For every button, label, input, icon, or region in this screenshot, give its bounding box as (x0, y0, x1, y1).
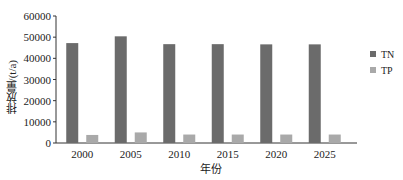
legend-label-tn: TN (381, 49, 394, 60)
y-tick-label: 60000 (24, 10, 52, 22)
bar-tn-2005 (115, 36, 127, 143)
bar-tp-2010 (183, 135, 195, 143)
legend-item-tn: TN (370, 46, 394, 62)
legend-swatch-tn (370, 51, 376, 57)
y-tick-label: 40000 (24, 52, 52, 64)
bar-tn-2020 (260, 44, 272, 143)
x-tick-label: 2020 (265, 148, 288, 160)
x-tick-label: 2000 (71, 148, 94, 160)
bar-tp-2015 (232, 135, 244, 143)
bar-tn-2010 (163, 44, 175, 143)
bar-tn-2015 (212, 44, 224, 143)
x-axis-label: 年份 (200, 160, 222, 176)
legend: TN TP (370, 46, 394, 78)
legend-swatch-tp (370, 67, 376, 73)
x-tick-label: 2025 (314, 148, 337, 160)
legend-item-tp: TP (370, 62, 394, 78)
y-axis-label: 排放量/(t/a) (4, 60, 18, 114)
y-tick-label: 0 (46, 137, 52, 149)
bar-tp-2000 (86, 135, 98, 143)
bar-tp-2020 (280, 135, 292, 143)
x-tick-label: 2005 (120, 148, 143, 160)
y-tick-label: 50000 (24, 31, 52, 43)
y-tick-label: 10000 (24, 116, 52, 128)
bar-tn-2025 (309, 44, 321, 143)
bar-chart: 0100002000030000400005000060000200020052… (0, 0, 403, 180)
bar-tp-2025 (329, 135, 341, 143)
bar-tp-2005 (135, 132, 147, 143)
bar-tn-2000 (66, 43, 78, 143)
x-tick-label: 2015 (217, 148, 240, 160)
y-tick-label: 20000 (24, 95, 52, 107)
y-tick-label: 30000 (24, 74, 52, 86)
x-tick-label: 2010 (168, 148, 191, 160)
legend-label-tp: TP (381, 65, 393, 76)
